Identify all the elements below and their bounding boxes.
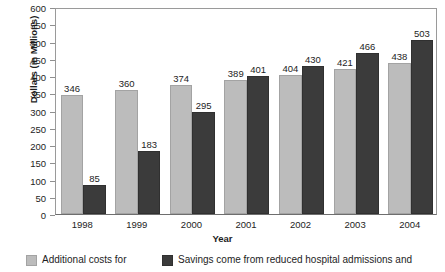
y-axis-tick-label: 200 <box>0 141 46 152</box>
bar <box>334 69 357 214</box>
bar <box>83 185 106 214</box>
x-axis-tick-label: 1999 <box>110 219 165 230</box>
y-axis-tick-label: 0 <box>0 210 46 221</box>
legend-swatch-icon <box>162 255 173 266</box>
y-axis-tick-label: 50 <box>0 192 46 203</box>
bar <box>356 53 379 214</box>
chart-legend: Additional costs for Savings come from r… <box>0 253 445 272</box>
bar <box>115 90 138 214</box>
y-axis-tick-label: 250 <box>0 123 46 134</box>
bar-value-label: 295 <box>186 100 221 111</box>
x-axis-tick-label: 1998 <box>55 219 110 230</box>
bar-value-label: 85 <box>77 173 112 184</box>
bar-value-label: 466 <box>350 41 385 52</box>
bar-value-label: 503 <box>405 28 440 39</box>
x-axis-tick-label: 2001 <box>219 219 274 230</box>
y-axis-tick-label: 550 <box>0 20 46 31</box>
bar <box>247 76 270 214</box>
bar <box>61 95 84 214</box>
bar-group: 404430 <box>274 9 329 214</box>
y-axis-tick-label: 600 <box>0 3 46 14</box>
y-axis-tick-label: 100 <box>0 175 46 186</box>
bar <box>411 40 434 214</box>
y-axis-tick-label: 500 <box>0 37 46 48</box>
bar-group: 34685 <box>56 9 111 214</box>
x-axis-title: Year <box>0 233 445 244</box>
bar <box>302 66 325 214</box>
bar-value-label: 430 <box>296 54 331 65</box>
bar-group: 389401 <box>220 9 275 214</box>
legend-item-savings: Savings come from reduced hospital admis… <box>162 253 412 266</box>
bar-chart-figure: Dollars (in Millions) 050100150200250300… <box>0 0 445 272</box>
bar <box>138 151 161 214</box>
bar <box>388 63 411 214</box>
legend-item-additional-costs: Additional costs for <box>26 253 127 266</box>
y-axis-tick-label: 350 <box>0 89 46 100</box>
y-axis-tick <box>50 215 55 216</box>
plot-area: 3468536018337429538940140443042146643850… <box>55 8 437 215</box>
bar <box>224 80 247 214</box>
legend-item-label: Additional costs for <box>42 253 127 266</box>
bar-group: 360183 <box>111 9 166 214</box>
legend-item-label: Savings come from reduced hospital admis… <box>178 253 412 266</box>
bar-group: 374295 <box>165 9 220 214</box>
bar-value-label: 360 <box>109 78 144 89</box>
bar-group: 421466 <box>329 9 384 214</box>
bar-value-label: 346 <box>55 83 90 94</box>
bar-group: 438503 <box>383 9 438 214</box>
x-axis-tick-label: 2002 <box>273 219 328 230</box>
y-axis-tick-label: 450 <box>0 54 46 65</box>
y-axis-tick-label: 150 <box>0 158 46 169</box>
bar-value-label: 374 <box>164 73 199 84</box>
legend-swatch-icon <box>26 255 37 266</box>
x-axis-tick-label: 2000 <box>164 219 219 230</box>
bar <box>192 112 215 214</box>
y-axis-tick-label: 400 <box>0 72 46 83</box>
x-axis-tick-label: 2004 <box>382 219 437 230</box>
bar-value-label: 183 <box>132 139 167 150</box>
y-axis-tick-label: 300 <box>0 106 46 117</box>
bar-value-label: 401 <box>241 64 276 75</box>
x-axis-tick-label: 2003 <box>328 219 383 230</box>
bar <box>279 75 302 214</box>
